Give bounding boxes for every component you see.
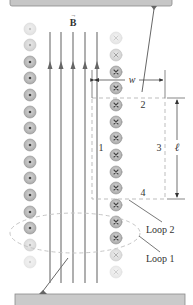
- right-conductor-column: [110, 32, 122, 278]
- left-conductor-column: [24, 23, 36, 268]
- top-pointer-line: [142, 9, 154, 92]
- side-label-2: 2: [141, 99, 146, 110]
- bottom-pointer-line: [43, 258, 68, 291]
- length-label: ℓ: [175, 141, 180, 153]
- side-label-1: 1: [99, 142, 104, 153]
- field-vector-arrow: →: [71, 12, 77, 18]
- width-label: w: [129, 74, 136, 85]
- side-label-4: 4: [141, 187, 146, 198]
- diagram-canvas: B →: [0, 0, 193, 305]
- loop-1-label: Loop 1: [146, 253, 175, 264]
- field-label: B: [70, 17, 77, 28]
- top-support-bar: [10, 0, 172, 10]
- loop-2-leader: [129, 200, 162, 222]
- bottom-support-bar: [15, 290, 185, 305]
- loop-2-label: Loop 2: [146, 224, 175, 235]
- loop-1-leader: [139, 236, 160, 252]
- side-label-3: 3: [157, 142, 162, 153]
